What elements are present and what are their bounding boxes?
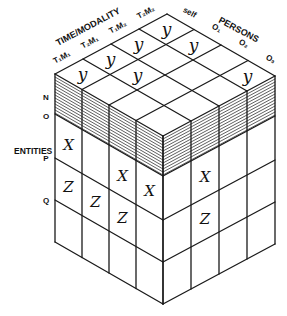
time-modality-level-label: T₂M₂ (135, 4, 156, 21)
top-cell-mark: y (105, 49, 116, 69)
left-cell-mark: X (143, 182, 156, 200)
persons-axis-title: PERSONS (217, 15, 261, 44)
entity-level-label: N (43, 93, 49, 102)
top-cell-mark: y (161, 19, 172, 39)
entity-level-label: P (43, 154, 49, 163)
top-cell-mark: y (188, 35, 199, 55)
left-cell-mark: X (116, 167, 129, 185)
data-cube-diagram: yyyyyyyXZZXZXXZ TIME/MODALITY PERSONS EN… (0, 0, 287, 316)
top-cell-mark: y (242, 66, 253, 86)
top-cell-mark: y (132, 65, 143, 85)
persons-level-label: self (181, 5, 198, 20)
right-cell-mark: X (199, 168, 212, 186)
left-cell-mark: Z (116, 209, 128, 227)
left-cell-mark: X (62, 136, 75, 154)
top-cell-mark: y (77, 64, 88, 84)
left-cell-mark: Z (89, 193, 101, 211)
entity-level-label: Q (43, 196, 49, 205)
time-modality-level-label: T₁M₁ (52, 49, 73, 66)
left-cell-mark: Z (62, 178, 74, 196)
right-cell-mark: Z (199, 210, 211, 228)
top-cell-mark: y (133, 34, 144, 54)
persons-level-label: O₃ (264, 53, 277, 66)
entity-level-label: O (43, 112, 49, 121)
time-modality-level-label: T₂M₁ (80, 34, 101, 51)
time-modality-level-label: T₁M₂ (108, 19, 129, 36)
